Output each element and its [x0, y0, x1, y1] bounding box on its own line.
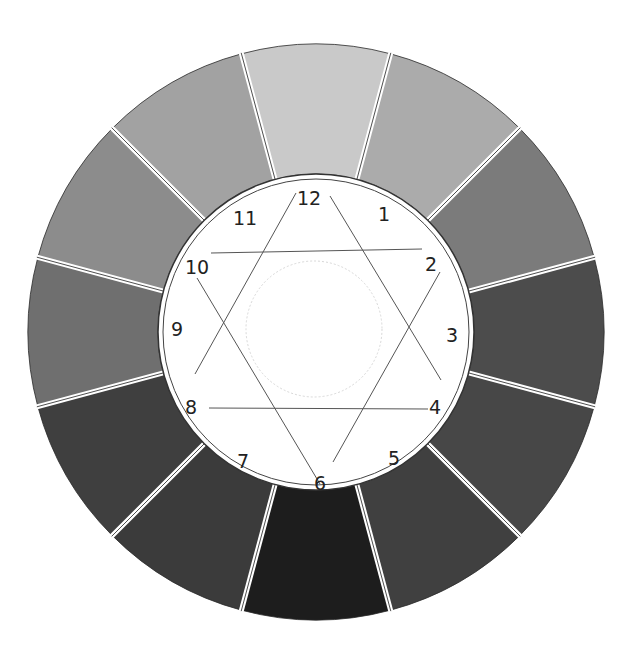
position-label-5: 5 — [388, 447, 400, 469]
position-label-4: 4 — [429, 396, 441, 418]
position-label-2: 2 — [425, 253, 437, 275]
position-label-6: 6 — [314, 472, 326, 494]
position-label-3: 3 — [446, 324, 458, 346]
position-label-12: 12 — [297, 187, 321, 209]
inner-white-disc — [158, 174, 474, 490]
position-label-7: 7 — [237, 450, 249, 472]
position-label-11: 11 — [233, 207, 257, 229]
position-label-8: 8 — [185, 396, 197, 418]
position-label-1: 1 — [378, 203, 390, 225]
color-wheel-diagram: 121234567891011 — [0, 0, 634, 652]
position-label-10: 10 — [185, 256, 209, 278]
position-label-9: 9 — [171, 318, 183, 340]
